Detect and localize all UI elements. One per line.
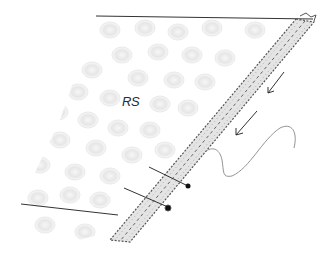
arrow-icon (236, 111, 257, 135)
needle-tip-icon (186, 184, 191, 189)
side-label: RS (122, 94, 139, 109)
knitting-diagram (0, 0, 324, 261)
arrow-icon (268, 72, 284, 93)
top-edge-line (96, 16, 313, 19)
needle-tip-icon (165, 205, 171, 211)
